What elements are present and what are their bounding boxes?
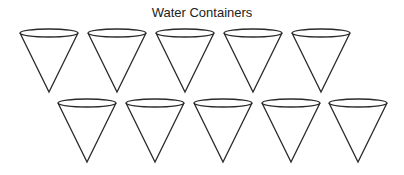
cone-container-icon xyxy=(262,99,320,162)
cone-container-icon xyxy=(88,29,146,92)
cone-container-icon xyxy=(224,29,282,92)
cone-container-icon xyxy=(194,99,252,162)
cone-container-icon xyxy=(126,99,184,162)
cone-container-icon xyxy=(58,99,116,162)
cone-container-icon xyxy=(329,99,387,162)
cone-container-icon xyxy=(20,29,78,92)
cone-container-icon xyxy=(156,29,214,92)
cone-container-icon xyxy=(292,29,350,92)
cones-canvas xyxy=(0,0,404,175)
